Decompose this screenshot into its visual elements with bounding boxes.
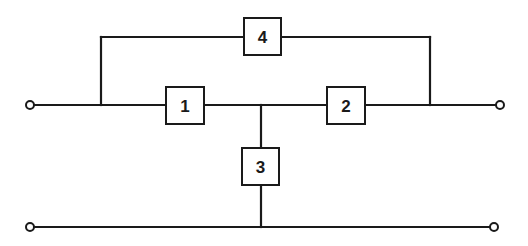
terminal-input-top [26, 101, 34, 109]
block-4-label: 4 [258, 28, 268, 47]
block-2-label: 2 [341, 97, 350, 116]
block-3-label: 3 [256, 158, 265, 177]
terminal-input-bottom [26, 223, 34, 231]
network-diagram: 4 1 2 3 [0, 0, 528, 246]
terminal-output-bottom [490, 223, 498, 231]
block-1-label: 1 [180, 97, 189, 116]
terminal-output-top [496, 101, 504, 109]
